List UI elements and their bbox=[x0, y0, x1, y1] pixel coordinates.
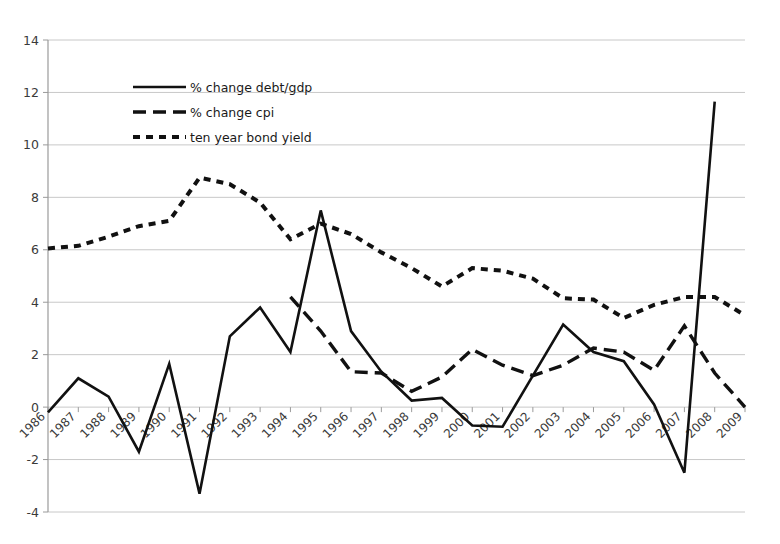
y-axis-tick-label: -2 bbox=[27, 452, 39, 467]
x-axis-tick-label: 2009 bbox=[714, 409, 745, 440]
series-line-1[interactable] bbox=[290, 297, 745, 407]
x-axis-tick-label: 1999 bbox=[411, 409, 442, 440]
x-axis-tick-label: 1986 bbox=[17, 409, 48, 440]
y-axis-tick-label: 10 bbox=[23, 137, 39, 152]
chart-container: -4-2024681012141986198719881989199019911… bbox=[0, 0, 780, 544]
x-axis-tick-label: 1997 bbox=[350, 409, 381, 440]
x-axis-tick-label: 1995 bbox=[289, 409, 320, 440]
x-axis-tick-label: 1998 bbox=[380, 409, 411, 440]
x-axis-tick-label: 2006 bbox=[623, 409, 654, 440]
chart-title bbox=[0, 0, 780, 6]
x-axis-tick-label: 1987 bbox=[47, 409, 78, 440]
x-axis-tick-label: 2000 bbox=[441, 409, 472, 440]
legend: % change debt/gdp% change cpiten year bo… bbox=[133, 80, 312, 145]
gridlines-group: -4-202468101214 bbox=[23, 33, 745, 520]
legend-label-2[interactable]: ten year bond yield bbox=[190, 130, 312, 145]
chart-plot-area: -4-2024681012141986198719881989199019911… bbox=[0, 0, 780, 544]
x-axis-tick-label: 2003 bbox=[532, 409, 563, 440]
y-axis-tick-label: 8 bbox=[31, 190, 39, 205]
x-axis-tick-label: 1988 bbox=[77, 409, 108, 440]
y-axis-tick-label: 6 bbox=[31, 242, 39, 257]
y-axis-tick-label: 12 bbox=[23, 85, 39, 100]
x-axis-tick-label: 2005 bbox=[592, 409, 623, 440]
x-axis-tick-label: 1996 bbox=[320, 409, 351, 440]
y-axis-tick-label: 14 bbox=[23, 33, 39, 48]
y-axis-tick-label: -4 bbox=[27, 505, 40, 520]
y-axis-tick-label: 4 bbox=[31, 295, 39, 310]
legend-label-1[interactable]: % change cpi bbox=[190, 105, 274, 120]
series-line-2[interactable] bbox=[48, 178, 745, 318]
x-axis-tick-label: 1993 bbox=[229, 409, 260, 440]
legend-label-0[interactable]: % change debt/gdp bbox=[190, 80, 312, 95]
x-axis-tick-label: 2002 bbox=[501, 409, 532, 440]
y-axis-tick-label: 2 bbox=[31, 347, 39, 362]
x-axis-tick-label: 1994 bbox=[259, 409, 290, 440]
x-axis-tick-label: 2004 bbox=[562, 409, 593, 440]
x-axis-group: 1986198719881989199019911992199319941995… bbox=[17, 407, 745, 441]
x-axis-tick-label: 1990 bbox=[138, 409, 169, 440]
